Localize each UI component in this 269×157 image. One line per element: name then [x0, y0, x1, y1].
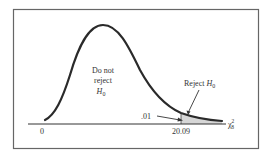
reject-region-label: Reject H0 — [184, 79, 215, 89]
tick-label-critical: 20.09 — [172, 127, 190, 136]
accept-region-h0: H0 — [96, 87, 106, 97]
accept-region-label-1: Do not — [92, 66, 115, 75]
alpha-label: .01 — [141, 112, 151, 121]
chi-square-chart: Do not reject H0 Reject H0 .01 0 20.09 χ… — [0, 0, 269, 157]
chart-frame — [14, 10, 259, 149]
tick-label-zero: 0 — [40, 127, 44, 136]
x-axis-label: χ28 — [227, 118, 235, 130]
reject-pointer-line — [188, 90, 199, 113]
alpha-pointer-line — [157, 116, 180, 120]
density-curve — [45, 25, 222, 121]
accept-region-label-2: reject — [94, 76, 113, 85]
